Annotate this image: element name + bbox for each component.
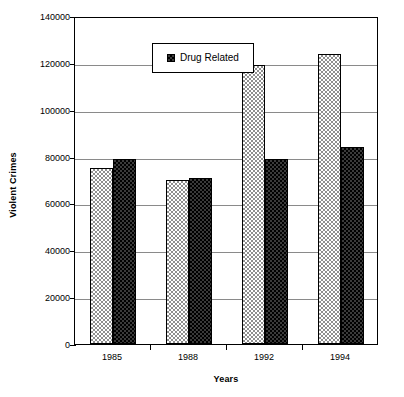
y-axis-tick-label: 100000 [20,107,70,116]
chart-legend[interactable]: Drug Related [152,43,254,73]
bar [265,159,288,344]
bar [318,54,341,345]
x-axis-tick-label: 1992 [226,352,302,363]
bar [113,159,136,344]
legend-label: Drug Related [180,53,239,63]
y-axis-tick-label: 20000 [20,294,70,303]
x-axis-title: Years [74,374,378,384]
bar [341,147,364,344]
y-axis-tick-label: 60000 [20,200,70,209]
x-axis-tick-mark [150,345,151,350]
x-axis-tick-marks [74,345,378,351]
x-axis-tick-label: 1994 [302,352,378,363]
bar [166,180,189,344]
y-axis-tick-label: 40000 [20,247,70,256]
x-axis-tick-mark [226,345,227,350]
bar [189,178,212,344]
bar [242,65,265,344]
x-axis-tick-label: 1985 [74,352,150,363]
bar [90,168,113,344]
bar-chart: Violent Crimes 0200004000060000800001000… [0,0,404,397]
x-axis-tick-mark [302,345,303,350]
y-axis-tick-label: 140000 [20,13,70,22]
x-axis-tick-label: 1988 [150,352,226,363]
y-axis-tick-label: 0 [20,341,70,350]
x-axis-tick-labels: 1985198819921994 [74,352,378,366]
y-axis-tick-label: 120000 [20,60,70,69]
y-axis-tick-label: 80000 [20,154,70,163]
y-axis-tick-labels: 020000400006000080000100000120000140000 [20,17,70,345]
legend-swatch-icon [167,54,175,62]
